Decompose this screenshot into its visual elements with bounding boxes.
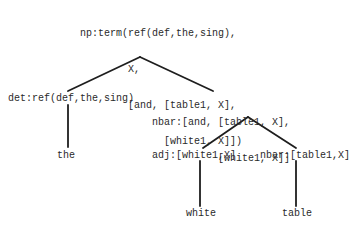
nbar-table-node: nbar:[table1,X] [260, 150, 350, 162]
adj-node: adj:[white1,X] [152, 150, 236, 162]
leaf-table: table [282, 208, 312, 220]
root-line-1: np:term(ref(def,the,sing), [80, 28, 242, 40]
root-line-2: X, [80, 64, 242, 76]
det-node: det:ref(def,the,sing) [8, 93, 134, 105]
leaf-white: white [186, 208, 216, 220]
leaf-the: the [57, 150, 75, 162]
nbar-node: nbar:[and, [table1, X], [white1, X]] [152, 93, 290, 189]
nbar-line-1: nbar:[and, [table1, X], [152, 117, 290, 129]
parse-tree-diagram: np:term(ref(def,the,sing), X, [and, [tab… [0, 0, 357, 225]
